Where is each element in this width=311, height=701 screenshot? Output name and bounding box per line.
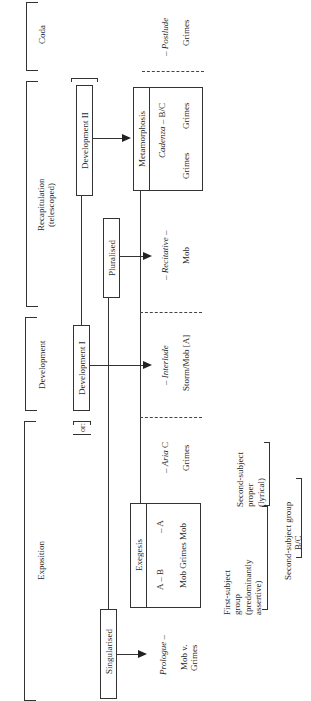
postlude-character: Grimes [181,15,191,50]
second-group-l1: Second-subject group [283,502,293,580]
singularised-label: Singularised [103,610,116,694]
first-subject-l3: (predominantly [243,560,253,616]
section-development: Development [37,330,47,400]
dev1-arrow-line [90,365,144,366]
first-subject-bracket [262,506,268,610]
metamorphosis-divider [149,88,150,190]
first-subject-group: First-subject group (predominantly asser… [222,555,263,615]
first-subject-l2: group [232,594,242,615]
arrow-icon [143,252,152,260]
recap-line1: Recapitulation [36,179,46,231]
arrow-icon [138,650,147,658]
development-i-label: Development I [76,326,89,410]
arrow-icon [143,361,152,369]
separator-coda [142,71,204,72]
dev2-arrow-line [93,138,123,139]
metamorphosis-box: Metamorphosis Cadenza – B/C Grimes Grime… [133,87,203,191]
aria-character: Grimes [181,440,191,475]
second-proper-l2: proper [245,484,255,508]
prologue-char-grimes: Grimes [189,644,199,671]
second-subject-proper-bracket [264,442,270,506]
singularised-box: Singularised [100,609,117,699]
pluralised-box: Pluralised [103,218,120,298]
interlude-dash: – [160,378,170,385]
separator-recap-dev [140,312,202,313]
exegesis-row1-b: – A [155,514,165,539]
exegesis-row1-a: A – B [155,559,165,599]
interlude-character: Storm/Mob [A] [181,330,191,395]
main-timeline [140,190,141,505]
metamorphosis-grimes-2: Grimes [181,96,191,136]
interlude-italic: Interlude [160,345,170,378]
cadenza-italic: Cadenza [157,126,167,158]
prologue-characters: Mob v. Grimes [179,635,200,680]
or-bracket-side2 [90,421,91,425]
metamorphosis-title: Metamorphosis [135,88,149,190]
cadenza-label: Cadenza – B/C [157,100,167,160]
postlude-dash: – [160,49,170,56]
development-i-box: Development I [73,325,90,411]
exegesis-title: Exegesis [132,504,146,607]
aria-label: – Aria C [160,440,170,475]
arrow-icon [122,134,131,142]
separator-dev-expo [140,417,202,418]
exegesis-row2: Mob Grimes Mob [178,512,188,600]
cadenza-rest: – B/C [157,103,167,127]
development-bracket [25,317,37,411]
pluralised-label: Pluralised [106,219,119,297]
singularised-arrow-line [117,654,139,655]
prologue-italic: Prologue [158,642,168,675]
postlude-italic: Postlude [160,17,170,49]
recitative-label: – Recitative – [160,225,170,285]
development-ii-box: Development II [76,85,93,196]
aria-italic: Aria [160,450,170,466]
exegesis-box: Exegesis A – B – A Mob Grimes Mob [130,503,201,608]
second-subject-group-bracket [296,478,302,558]
aria-dash: – [160,466,170,473]
exegesis-divider [146,504,147,607]
metamorphosis-grimes-1: Grimes [181,146,191,186]
or-label: or: [78,422,87,434]
section-coda: Coda [37,10,47,60]
interlude-label: – Interlude [160,340,170,390]
development-ii-label: Development II [79,86,92,195]
first-subject-l1: First-subject [222,570,232,615]
dev2-top-bracket [71,78,98,82]
pluralised-stem [108,298,109,610]
section-exposition: Exposition [36,520,46,600]
exposition-bracket [24,421,36,701]
dev2-stem [81,196,82,326]
second-subject-proper: Second-subject proper (lyrical) [235,452,266,507]
or-bracket-side [73,421,74,425]
postlude-label: – Postlude [160,14,170,59]
prologue-dash: – [158,635,168,642]
recap-line2: (telescoped) [46,183,56,227]
aria-suffix: C [160,442,170,450]
second-proper-l1: Second-subject [235,452,245,507]
prologue-char-mob: Mob v. [179,645,189,670]
section-recapitulation: Recapitulation (telescoped) [36,150,57,260]
prologue-label: Prologue – [158,630,168,680]
recitative-character: Mob [181,240,191,270]
